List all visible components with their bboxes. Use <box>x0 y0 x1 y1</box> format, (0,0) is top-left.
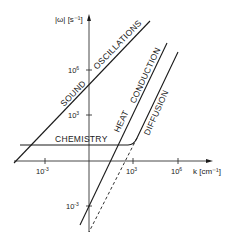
diffusion-label: DIFFUSION <box>142 88 171 136</box>
y-axis-arrow-icon <box>87 14 91 21</box>
oscillations-label-group: OSCILLATIONS <box>91 18 143 72</box>
diffusion-label-group: DIFFUSION <box>142 88 171 136</box>
y-tick-label-1e3: 103 <box>68 110 79 120</box>
y-tick-label-1e-3: 10-3 <box>66 201 79 211</box>
oscillations-label: OSCILLATIONS <box>91 18 143 72</box>
heat-label: HEAT <box>112 109 131 134</box>
x-tick-label-1e6: 106 <box>171 166 182 176</box>
y-axis-label: |ω| [s⁻¹] <box>55 15 83 24</box>
chemistry-label: CHEMISTRY <box>55 134 108 144</box>
heat-label-group: HEAT <box>112 109 131 134</box>
x-tick-label-1e-3: 10-3 <box>36 166 49 176</box>
x-axis-label: k [cm⁻¹] <box>193 167 221 176</box>
y-tick-label-1e6: 106 <box>68 65 79 75</box>
dispersion-diagram: 106 103 10-3 10-3 103 106 |ω| [s⁻¹] k [c… <box>0 0 242 245</box>
x-tick-label-1e3: 103 <box>126 166 137 176</box>
x-axis-arrow-icon <box>206 159 213 163</box>
sound-label: SOUND <box>58 78 88 108</box>
diffusion-dashed-extension <box>89 138 137 232</box>
sound-label-group: SOUND <box>58 78 88 108</box>
